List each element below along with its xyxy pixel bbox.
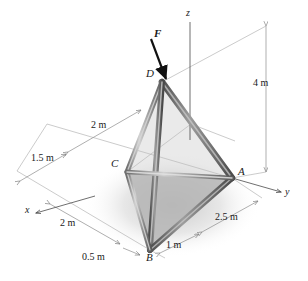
vertex-label-B: B xyxy=(146,252,153,263)
vertex-label-C: C xyxy=(111,158,118,169)
vertex-label-D: D xyxy=(146,68,154,79)
dimension-label-2m-upper: 2 m xyxy=(91,120,106,130)
dimension-label-1m: 1 m xyxy=(166,240,181,250)
force-label-F: F xyxy=(154,28,161,39)
dimension-label-2p5m: 2.5 m xyxy=(215,212,238,222)
axis-label-z: z xyxy=(186,8,190,18)
dimension-label-1p5m: 1.5 m xyxy=(31,153,54,163)
dim-line-2m-upper xyxy=(68,110,141,152)
diagram-canvas xyxy=(0,0,308,281)
vertex-label-A: A xyxy=(238,166,245,177)
statics-diagram: D C A B z y x F 4 m 2 m 1.5 m 2 m 0.5 m … xyxy=(0,0,308,281)
dimension-label-2m-lower: 2 m xyxy=(60,218,75,228)
dimension-label-0p5m: 0.5 m xyxy=(82,252,105,262)
axis-label-x: x xyxy=(25,205,29,215)
axis-label-y: y xyxy=(285,187,289,197)
dimension-label-4m: 4 m xyxy=(253,78,268,88)
